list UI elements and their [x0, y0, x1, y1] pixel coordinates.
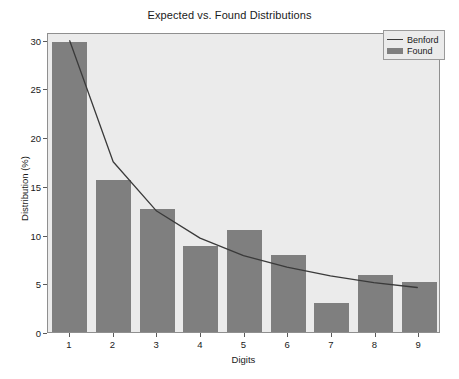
x-tick-mark: [418, 333, 419, 337]
x-tick-label: 9: [403, 339, 433, 350]
x-tick-mark: [200, 333, 201, 337]
legend-bar-swatch-icon: [387, 48, 403, 54]
x-tick-label: 2: [98, 339, 128, 350]
legend-label-found: Found: [407, 46, 433, 56]
chart-title: Expected vs. Found Distributions: [0, 9, 459, 21]
x-tick-label: 1: [54, 339, 84, 350]
benford-line-layer: [48, 34, 439, 332]
x-tick-mark: [113, 333, 114, 337]
legend-label-benford: Benford: [407, 35, 439, 45]
y-tick-label: 30: [1, 35, 41, 46]
x-tick-label: 3: [141, 339, 171, 350]
chart-legend: Benford Found: [383, 30, 445, 60]
x-tick-mark: [156, 333, 157, 337]
plot-area: [47, 33, 440, 333]
x-tick-label: 8: [360, 339, 390, 350]
x-tick-mark: [69, 333, 70, 337]
figure-canvas: Expected vs. Found Distributions 0510152…: [0, 0, 459, 379]
legend-entry-benford: Benford: [387, 34, 439, 45]
x-tick-mark: [244, 333, 245, 337]
x-tick-label: 4: [185, 339, 215, 350]
x-tick-label: 7: [316, 339, 346, 350]
x-tick-label: 6: [272, 339, 302, 350]
y-axis-title: Distribution (%): [19, 89, 30, 289]
legend-line-swatch-icon: [387, 39, 403, 40]
x-tick-label: 5: [229, 339, 259, 350]
benford-line-series: [70, 41, 418, 288]
x-axis-title: Digits: [47, 354, 440, 365]
legend-entry-found: Found: [387, 45, 439, 56]
y-tick-label: 0: [1, 328, 41, 339]
x-tick-mark: [331, 333, 332, 337]
x-tick-mark: [287, 333, 288, 337]
y-tick-mark: [43, 333, 47, 334]
x-tick-mark: [375, 333, 376, 337]
